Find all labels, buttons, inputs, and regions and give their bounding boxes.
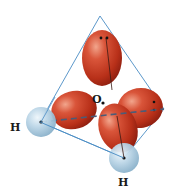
- lone-pair-lobe-top: [82, 30, 122, 90]
- oxygen-nucleus-dot: [101, 101, 104, 104]
- electron-dot: [106, 37, 109, 40]
- hydrogen-left-label: H: [10, 121, 20, 134]
- electron-dot: [153, 101, 156, 104]
- electron-dot: [100, 37, 103, 40]
- hydrogen-bottom-label: H: [118, 176, 128, 189]
- oxygen-label: O: [92, 93, 102, 106]
- hydrogen-atom-left: [26, 97, 56, 137]
- water-molecule-diagram: O H H: [0, 0, 176, 193]
